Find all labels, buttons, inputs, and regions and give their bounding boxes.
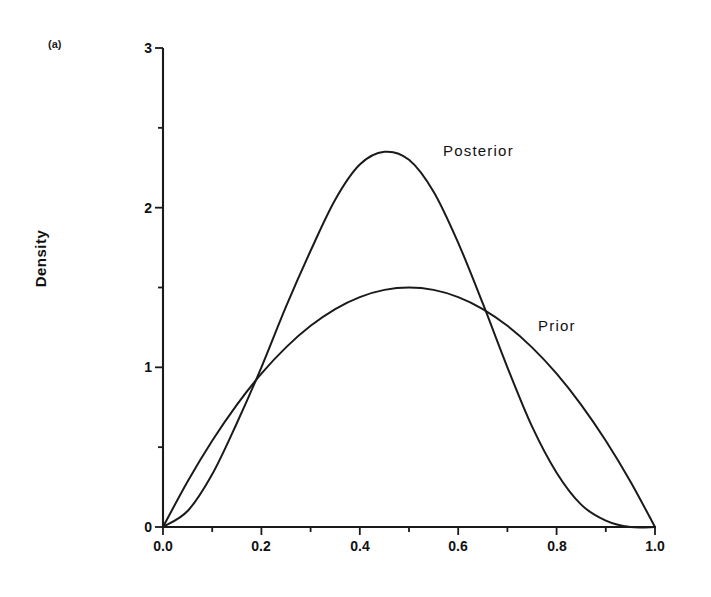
series-group [163,152,655,528]
x-tick-label-4: 0.8 [547,538,566,554]
x-tick-label-0: 0.0 [153,538,172,554]
x-tick-label-2: 0.4 [350,538,369,554]
y-axis-label: Density [32,214,49,304]
prior-curve-label: Prior [538,317,576,334]
x-tick-label-5: 1.0 [645,538,664,554]
x-axis-ticks [163,527,655,535]
figure-panel-a: (a) Density 3 2 1 0 0.0 0.2 0.4 0.6 0.8 … [0,0,711,597]
x-tick-label-1: 0.2 [251,538,270,554]
prior-curve [163,288,655,528]
y-axis-ticks [155,48,163,527]
posterior-curve-label: Posterior [443,142,514,159]
axes-group [155,48,655,535]
panel-label: (a) [48,38,61,50]
y-tick-label-0: 0 [122,519,152,535]
y-tick-label-3: 3 [122,40,152,56]
plot-canvas [0,0,711,597]
y-tick-label-1: 1 [122,359,152,375]
x-tick-label-3: 0.6 [448,538,467,554]
y-tick-label-2: 2 [122,200,152,216]
posterior-curve [163,152,655,528]
